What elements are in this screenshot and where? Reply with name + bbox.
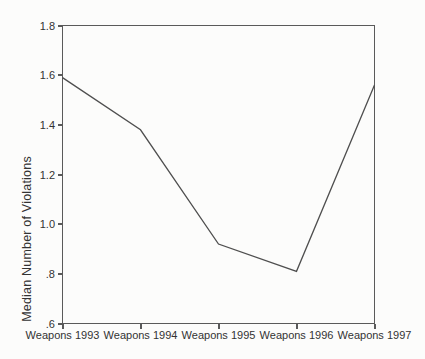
line-chart-figure: Median Number of Violations 1.8 1.6 1.4 …: [0, 0, 425, 359]
x-category-label: Weapons 1993: [18, 329, 108, 342]
x-category-label: Weapons 1995: [174, 329, 264, 342]
y-tick-label: .8: [15, 268, 55, 280]
y-tick-label: 1.2: [15, 169, 55, 181]
y-tick-label: 1.0: [15, 218, 55, 230]
x-category-label: Weapons 1996: [252, 329, 342, 342]
data-line: [63, 78, 375, 272]
y-tick-label: 1.8: [15, 20, 55, 32]
x-category-label: Weapons 1997: [330, 329, 420, 342]
plot-frame: [63, 26, 375, 324]
x-category-label: Weapons 1994: [96, 329, 186, 342]
plot-canvas: [0, 0, 425, 359]
y-tick-label: 1.4: [15, 119, 55, 131]
y-axis-title: Median Number of Violations: [20, 156, 34, 322]
y-tick-label: 1.6: [15, 69, 55, 81]
y-tick-label: .6: [15, 318, 55, 330]
